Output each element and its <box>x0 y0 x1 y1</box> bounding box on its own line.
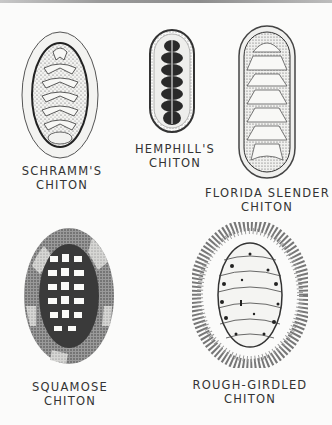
label-hemphills-chiton: HEMPHILL'S CHITON <box>120 142 230 170</box>
label-line-1: FLORIDA SLENDER <box>205 186 329 200</box>
label-schramms-chiton: SCHRAMM'S CHITON <box>12 164 112 192</box>
label-line-1: SCHRAMM'S <box>12 164 112 178</box>
label-line-2: CHITON <box>120 156 230 170</box>
label-line-2: CHITON <box>20 394 120 408</box>
label-line-2: CHITON <box>205 200 329 214</box>
label-line-2: CHITON <box>188 392 312 406</box>
label-line-1: SQUAMOSE <box>20 380 120 394</box>
label-line-1: HEMPHILL'S <box>120 142 230 156</box>
label-line-1: ROUGH-GIRDLED <box>188 378 312 392</box>
label-squamose-chiton: SQUAMOSE CHITON <box>20 380 120 408</box>
illustration-hemphills-chiton <box>148 28 196 134</box>
label-florida-slender-chiton: FLORIDA SLENDER CHITON <box>205 186 329 214</box>
illustration-florida-slender-chiton <box>237 24 297 180</box>
top-edge-shadow <box>0 0 332 3</box>
label-line-2: CHITON <box>12 178 112 192</box>
illustration-squamose-chiton <box>22 226 116 366</box>
illustration-rough-girdled-chiton <box>192 222 308 368</box>
label-rough-girdled-chiton: ROUGH-GIRDLED CHITON <box>188 378 312 406</box>
illustration-schramms-chiton <box>20 30 100 160</box>
